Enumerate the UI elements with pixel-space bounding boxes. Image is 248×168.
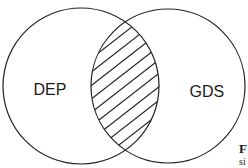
set-label-gds: GDS bbox=[190, 83, 225, 100]
hatch-line bbox=[60, 76, 190, 168]
hatch-line bbox=[60, 90, 190, 168]
caption-fragment-line2: si bbox=[239, 156, 246, 167]
intersection-hatching bbox=[60, 0, 190, 168]
hatch-line bbox=[60, 36, 190, 137]
hatch-line bbox=[60, 63, 190, 164]
caption-fragment-line1: F bbox=[239, 141, 247, 156]
set-circle-dep bbox=[3, 8, 159, 164]
hatch-line bbox=[60, 49, 190, 150]
hatch-line bbox=[60, 0, 190, 97]
hatch-line bbox=[60, 0, 190, 83]
venn-diagram: DEP GDS F si bbox=[0, 0, 248, 168]
set-label-dep: DEP bbox=[34, 81, 67, 98]
hatch-line bbox=[60, 9, 190, 110]
hatch-line bbox=[60, 22, 190, 123]
